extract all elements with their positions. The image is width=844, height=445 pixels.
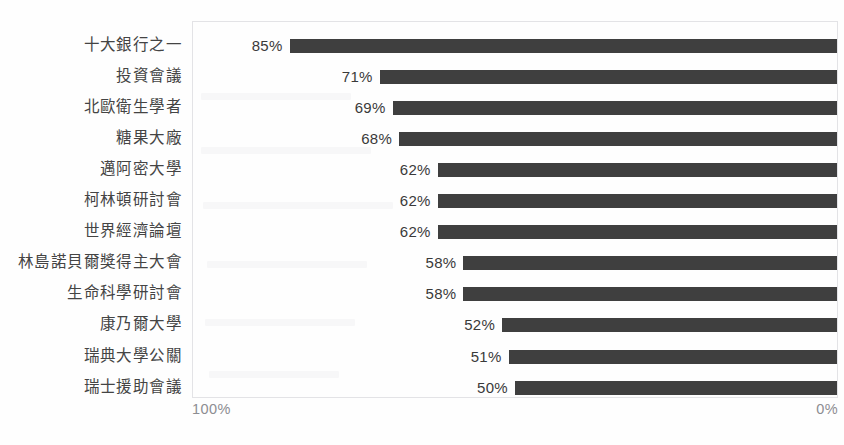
bar <box>502 318 837 332</box>
category-label: 康乃爾大學 <box>0 316 182 332</box>
category-label: 柯林頓研討會 <box>0 192 182 208</box>
bar-row: 58% <box>193 256 837 270</box>
bar <box>463 287 837 301</box>
category-label: 林島諾貝爾獎得主大會 <box>0 254 182 270</box>
bar <box>438 225 837 239</box>
bar-row: 58% <box>193 287 837 301</box>
bar-value-label: 71% <box>342 68 373 86</box>
bar-value-label: 51% <box>471 348 502 366</box>
axis-tick-max: 100% <box>192 400 231 418</box>
plot-area: 85%71%69%68%62%62%62%58%58%52%51%50% <box>192 21 838 398</box>
bar-row: 50% <box>193 381 837 395</box>
value-axis: 100% 0% <box>192 400 838 424</box>
bar-row: 69% <box>193 101 837 115</box>
category-label: 瑞士援助會議 <box>0 379 182 395</box>
bar-value-label: 68% <box>361 130 392 148</box>
background-artifact <box>201 93 351 100</box>
bar <box>399 132 837 146</box>
category-label: 邁阿密大學 <box>0 161 182 177</box>
bar-value-label: 62% <box>400 223 431 241</box>
category-axis: 十大銀行之一投資會議北歐衛生學者糖果大廠邁阿密大學柯林頓研討會世界經濟論壇林島諾… <box>0 21 182 396</box>
bar <box>438 194 837 208</box>
bar <box>438 163 837 177</box>
bar-value-label: 62% <box>400 161 431 179</box>
bar <box>290 39 837 53</box>
bar <box>393 101 837 115</box>
bar <box>515 381 837 395</box>
bar-value-label: 52% <box>464 316 495 334</box>
bar-row: 62% <box>193 163 837 177</box>
category-label: 北歐衛生學者 <box>0 99 182 115</box>
bar-row: 71% <box>193 70 837 84</box>
category-label: 投資會議 <box>0 68 182 84</box>
bar-chart: 十大銀行之一投資會議北歐衛生學者糖果大廠邁阿密大學柯林頓研討會世界經濟論壇林島諾… <box>0 0 844 445</box>
bar-row: 62% <box>193 194 837 208</box>
bar-value-label: 85% <box>252 37 283 55</box>
bar <box>380 70 837 84</box>
bar-value-label: 62% <box>400 192 431 210</box>
bar-value-label: 58% <box>426 254 457 272</box>
category-label: 世界經濟論壇 <box>0 223 182 239</box>
bar-row: 62% <box>193 225 837 239</box>
bar-value-label: 50% <box>477 379 508 397</box>
bar-row: 68% <box>193 132 837 146</box>
bar-row: 51% <box>193 350 837 364</box>
bar <box>463 256 837 270</box>
category-label: 十大銀行之一 <box>0 37 182 53</box>
bar-value-label: 58% <box>426 285 457 303</box>
background-artifact <box>201 147 371 154</box>
bar-value-label: 69% <box>355 99 386 117</box>
category-label: 糖果大廠 <box>0 130 182 146</box>
category-label: 瑞典大學公關 <box>0 348 182 364</box>
bar-row: 52% <box>193 318 837 332</box>
bar <box>509 350 837 364</box>
category-label: 生命科學研討會 <box>0 285 182 301</box>
bar-row: 85% <box>193 39 837 53</box>
background-artifact <box>209 371 339 378</box>
axis-tick-min: 0% <box>816 400 838 418</box>
